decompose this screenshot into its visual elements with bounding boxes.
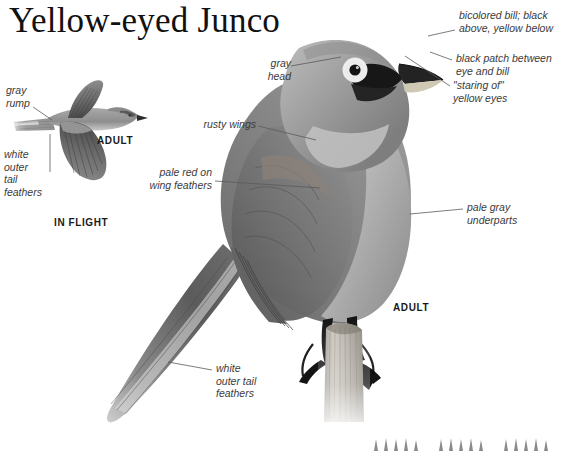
annotation-white-outer-tail-feathers: white outer tail feathers	[216, 362, 306, 400]
annotation-rusty-wings: rusty wings	[148, 118, 256, 131]
annotation-pale-red-wing-feathers: pale red on wing feathers	[96, 166, 212, 191]
annotation-staring-yellow-eyes: "staring of" yellow eyes	[453, 79, 558, 104]
annotation-pale-gray-underparts: pale gray underparts	[467, 201, 559, 226]
annotation-black-patch: black patch between eye and bill	[456, 52, 561, 77]
wooden-fence-post	[318, 318, 370, 438]
grass-tuft	[370, 437, 430, 451]
caption-in-flight: IN FLIGHT	[54, 217, 108, 228]
grass-tuft	[435, 437, 495, 451]
annotation-white-outer-tail-feathers-flight: white outer tail feathers	[4, 148, 66, 198]
caption-adult-flight: ADULT	[97, 135, 133, 146]
field-guide-plate: Yellow-eyed Junco	[0, 0, 561, 465]
grass-tuft	[500, 437, 560, 451]
annotation-gray-rump: gray rump	[6, 84, 66, 109]
annotation-gray-head: gray head	[191, 57, 291, 82]
annotation-bicolored-bill: bicolored bill; black above, yellow belo…	[459, 9, 561, 34]
caption-adult-perched: ADULT	[393, 302, 429, 313]
